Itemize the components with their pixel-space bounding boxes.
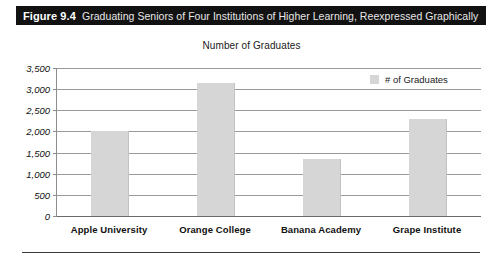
- bar: [409, 119, 447, 216]
- y-axis-tick-label: 500: [34, 189, 50, 200]
- figure-caption-text: Graduating Seniors of Four Institutions …: [82, 10, 478, 22]
- bar: [303, 159, 341, 216]
- chart-legend: # of Graduates: [368, 72, 452, 87]
- chart-title: Number of Graduates: [0, 40, 503, 51]
- plot-area: 05001,0001,5002,0002,5003,0003,500: [56, 68, 481, 216]
- y-axis-tick-label: 2,500: [26, 105, 50, 116]
- legend-swatch-icon: [370, 75, 379, 84]
- y-axis-tick-label: 1,500: [26, 147, 50, 158]
- x-axis-category-label: Grape Institute: [393, 224, 462, 235]
- bottom-divider: [22, 252, 480, 253]
- bar: [197, 83, 235, 216]
- y-axis-tick-label: 3,000: [26, 84, 50, 95]
- x-axis-category-label: Banana Academy: [281, 224, 361, 235]
- legend-label: # of Graduates: [385, 74, 448, 85]
- x-axis-category-label: Orange College: [179, 224, 251, 235]
- y-axis-tick-label: 0: [45, 211, 50, 222]
- figure-caption-banner: Figure 9.4 Graduating Seniors of Four In…: [16, 6, 486, 25]
- figure-number-label: Figure 9.4: [23, 10, 76, 22]
- bars-group: [57, 68, 481, 216]
- y-axis-tick-label: 1,000: [26, 168, 50, 179]
- x-axis-category-label: Apple University: [71, 224, 148, 235]
- y-axis-tick-label: 2,000: [26, 126, 50, 137]
- x-axis-baseline: [53, 216, 481, 217]
- y-axis-tick-mark: [53, 216, 57, 217]
- bar-chart: Number of Graduates 05001,0001,5002,0002…: [0, 30, 503, 245]
- y-axis-tick-label: 3,500: [26, 63, 50, 74]
- bar: [91, 131, 129, 216]
